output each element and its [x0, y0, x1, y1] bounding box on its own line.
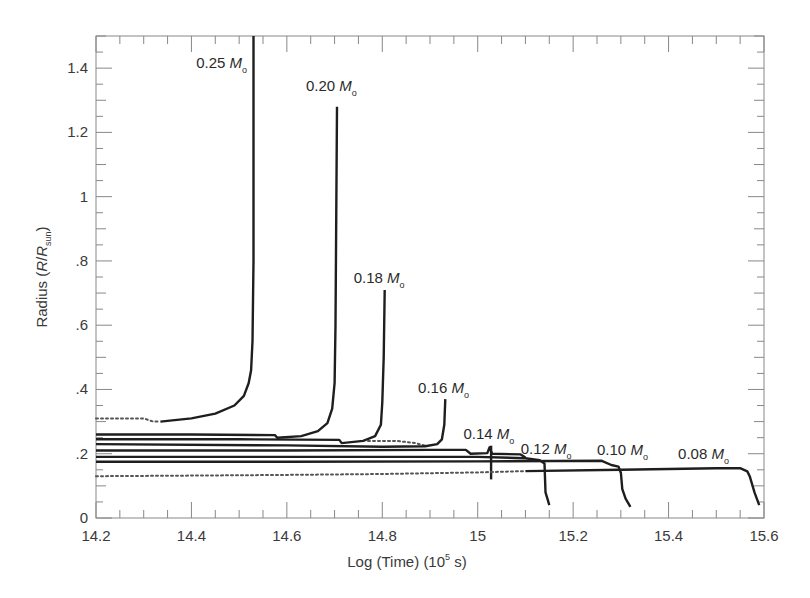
series-0-10 — [96, 461, 630, 507]
x-tick-label: 15.2 — [559, 527, 588, 544]
mass-label: 0.20 Mo — [306, 77, 357, 98]
y-tick-label: 1.4 — [67, 59, 88, 76]
y-tick-label: 1.2 — [67, 123, 88, 140]
y-tick-label: .2 — [75, 445, 88, 462]
y-axis-title: Radius (R/Rsun) — [33, 226, 53, 327]
x-tick-label: 14.8 — [368, 527, 397, 544]
mass-label: 0.10 Mo — [597, 441, 648, 462]
series-0-25 — [96, 36, 254, 422]
mass-annotations: 0.25 Mo0.20 Mo0.18 Mo0.16 Mo0.14 Mo0.12 … — [196, 54, 729, 465]
radius-vs-time-chart: 14.214.414.614.81515.215.415.6 0.2.4.6.8… — [0, 0, 810, 598]
x-tick-label: 15.6 — [749, 527, 778, 544]
series-0-20 — [96, 107, 337, 438]
series-curves — [96, 36, 759, 507]
x-tick-label: 14.2 — [81, 527, 110, 544]
series-0-18 — [96, 290, 385, 443]
series-0-08 — [96, 468, 759, 505]
y-tick-label: .8 — [75, 252, 88, 269]
mass-label: 0.25 Mo — [196, 54, 247, 75]
y-tick-label: 1 — [80, 188, 88, 205]
x-axis-title: Log (Time) (105 s) — [347, 552, 467, 570]
x-tick-label: 15.4 — [654, 527, 683, 544]
x-tick-labels: 14.214.414.614.81515.215.415.6 — [81, 527, 778, 544]
series-0-12 — [96, 457, 549, 505]
mass-label: 0.14 Mo — [463, 425, 514, 446]
x-tick-label: 15 — [469, 527, 486, 544]
y-tick-label: .6 — [75, 316, 88, 333]
mass-label: 0.08 Mo — [678, 445, 729, 466]
y-tick-labels: 0.2.4.6.811.21.4 — [67, 59, 88, 526]
x-tick-label: 14.6 — [272, 527, 301, 544]
x-tick-label: 14.4 — [177, 527, 206, 544]
y-tick-label: .4 — [75, 380, 88, 397]
y-tick-label: 0 — [80, 509, 88, 526]
mass-label: 0.18 Mo — [354, 269, 405, 290]
mass-label: 0.16 Mo — [418, 379, 469, 400]
